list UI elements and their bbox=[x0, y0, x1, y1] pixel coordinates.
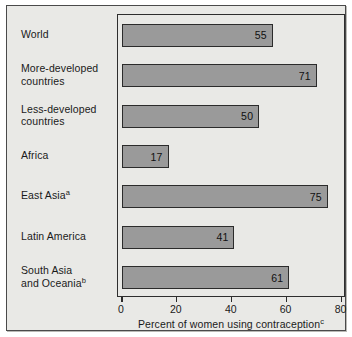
category-label-line: East Asiaa bbox=[21, 189, 117, 202]
x-tick-label: 20 bbox=[170, 303, 182, 315]
category-label: East Asiaa bbox=[21, 189, 117, 202]
category-label-line: countries bbox=[21, 75, 117, 88]
x-tick-mark bbox=[121, 297, 123, 302]
bar: 55 bbox=[122, 24, 273, 47]
bar-row: 61 bbox=[118, 266, 344, 289]
bars-container: 55715017754161 bbox=[118, 15, 344, 296]
x-tick-mark bbox=[176, 297, 178, 302]
chart-figure: WorldMore-developedcountriesLess-develop… bbox=[6, 5, 346, 331]
category-label-superscript: b bbox=[82, 275, 86, 284]
bar: 17 bbox=[122, 145, 169, 168]
category-label-line: More-developed bbox=[21, 62, 117, 75]
plot-area: 55715017754161 bbox=[117, 14, 345, 297]
bar-row: 71 bbox=[118, 64, 344, 87]
bar-value-label: 55 bbox=[255, 29, 267, 41]
bar-row: 50 bbox=[118, 105, 344, 128]
bar-row: 17 bbox=[118, 145, 344, 168]
x-axis-title-superscript: c bbox=[320, 317, 324, 326]
category-label-line: Less-developed bbox=[21, 103, 117, 116]
category-label-line: and Oceaniab bbox=[21, 277, 117, 290]
bar-value-label: 61 bbox=[271, 272, 283, 284]
bar-value-label: 50 bbox=[241, 110, 253, 122]
bar-value-label: 17 bbox=[151, 151, 163, 163]
bar: 50 bbox=[122, 105, 259, 128]
bar: 41 bbox=[122, 226, 234, 249]
x-tick-mark bbox=[231, 297, 233, 302]
bar-value-label: 75 bbox=[310, 191, 322, 203]
category-label-line: Latin America bbox=[21, 230, 117, 243]
bar-value-label: 71 bbox=[299, 70, 311, 82]
category-label: World bbox=[21, 28, 117, 41]
bar: 71 bbox=[122, 64, 317, 87]
x-tick-label: 80 bbox=[335, 303, 347, 315]
bar-row: 75 bbox=[118, 185, 344, 208]
x-tick-mark bbox=[341, 297, 343, 302]
x-tick-label: 40 bbox=[225, 303, 237, 315]
bar-value-label: 41 bbox=[216, 231, 228, 243]
bar-row: 41 bbox=[118, 226, 344, 249]
category-label-line: South Asia bbox=[21, 264, 117, 277]
bar: 75 bbox=[122, 185, 328, 208]
category-label-superscript: a bbox=[66, 188, 70, 197]
bar-row: 55 bbox=[118, 24, 344, 47]
x-axis-title: Percent of women using contraceptionc bbox=[117, 318, 345, 330]
bar: 61 bbox=[122, 266, 289, 289]
x-axis: Percent of women using contraceptionc 02… bbox=[117, 297, 345, 332]
category-label-line: World bbox=[21, 28, 117, 41]
category-label-column: WorldMore-developedcountriesLess-develop… bbox=[7, 14, 117, 297]
x-tick-mark bbox=[286, 297, 288, 302]
category-label: Less-developedcountries bbox=[21, 103, 117, 128]
category-label-line: countries bbox=[21, 115, 117, 128]
x-tick-label: 60 bbox=[280, 303, 292, 315]
category-label: Latin America bbox=[21, 230, 117, 243]
category-label-line: Africa bbox=[21, 149, 117, 162]
category-label: South Asiaand Oceaniab bbox=[21, 264, 117, 289]
x-tick-label: 0 bbox=[118, 303, 124, 315]
category-label: Africa bbox=[21, 149, 117, 162]
category-label: More-developedcountries bbox=[21, 62, 117, 87]
